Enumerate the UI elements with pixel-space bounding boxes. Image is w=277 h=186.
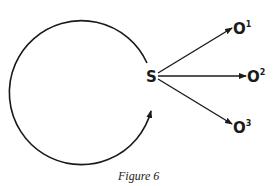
source-node-s: S bbox=[146, 68, 157, 86]
arrow-to-o1 bbox=[158, 28, 232, 73]
figure-caption: Figure 6 bbox=[117, 169, 159, 183]
outcome-node-2: O2 bbox=[247, 68, 265, 86]
diagram-canvas: S O1 O2 O3 Figure 6 bbox=[0, 0, 277, 186]
arrow-to-o3 bbox=[158, 79, 232, 124]
outcome-node-1: O1 bbox=[233, 20, 252, 38]
outcome-node-3: O3 bbox=[233, 119, 251, 137]
loop-arrow bbox=[9, 21, 151, 165]
